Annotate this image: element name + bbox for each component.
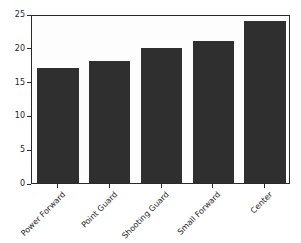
- bar-chart-figure: 0510152025 Power ForwardPoint GuardShoot…: [0, 0, 301, 243]
- y-tick-mark: [27, 82, 31, 83]
- y-tick-label: 0: [3, 180, 25, 188]
- y-tick-label: 5: [3, 146, 25, 154]
- bar-center: [244, 21, 285, 183]
- y-tick-mark: [27, 48, 31, 49]
- x-tick-label: Power Forward: [19, 190, 67, 238]
- x-tick-mark: [57, 184, 58, 188]
- y-tick-mark: [27, 15, 31, 16]
- x-tick-mark: [264, 184, 265, 188]
- x-tick-mark: [161, 184, 162, 188]
- plot-area: [31, 15, 290, 184]
- bar-shooting-guard: [141, 48, 182, 183]
- y-tick-label: 20: [3, 45, 25, 53]
- y-tick-label: 25: [3, 11, 25, 19]
- bar-power-forward: [37, 68, 78, 183]
- x-tick-label: Point Guard: [80, 190, 119, 229]
- x-tick-mark: [212, 184, 213, 188]
- y-tick-mark: [27, 116, 31, 117]
- y-tick-mark: [27, 184, 31, 185]
- y-tick-label: 10: [3, 112, 25, 120]
- x-tick-label: Small Forward: [176, 190, 223, 237]
- bar-small-forward: [193, 41, 234, 183]
- x-tick-label: Shooting Guard: [120, 190, 170, 240]
- y-tick-label: 15: [3, 79, 25, 87]
- bar-point-guard: [89, 61, 130, 183]
- x-tick-label: Center: [249, 190, 274, 215]
- x-tick-mark: [109, 184, 110, 188]
- y-tick-mark: [27, 150, 31, 151]
